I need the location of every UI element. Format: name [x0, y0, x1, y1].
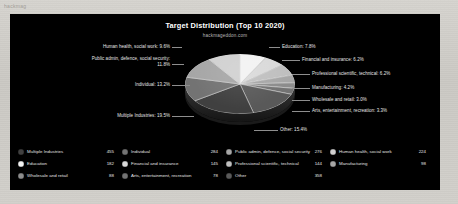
legend-item-value: 98: [404, 161, 426, 166]
legend-item[interactable]: Individual: [122, 146, 150, 157]
legend-item-value: 144: [300, 161, 322, 166]
legend-item-label: Multiple Industries: [27, 149, 63, 154]
legend-item-label: Human health, social work: [339, 149, 392, 154]
callout-education: Education: 7.8%: [282, 44, 316, 50]
leader-line-financial: [282, 60, 300, 61]
callout-public-admin: Public admin, defence, social security: …: [88, 56, 170, 67]
legend-item[interactable]: Financial and insurance: [122, 158, 179, 169]
callout-arts: Arts, entertainment, recreation: 3.3%: [312, 108, 387, 114]
chart-subtitle: hackmageddon.com: [10, 33, 440, 38]
legend-color-swatch-icon: [122, 173, 128, 179]
chart-panel: Target Distribution (Top 10 2020) hackma…: [10, 14, 440, 190]
chart-legend: Multiple Industries455Individual284Publi…: [10, 146, 440, 184]
leader-line-education: [269, 47, 280, 48]
legend-item-value: 182: [92, 161, 114, 166]
legend-item-label: Public admin, defence, social security: [235, 149, 310, 154]
chart-title: Target Distribution (Top 10 2020): [10, 21, 440, 30]
legend-item-value: 455: [92, 149, 114, 154]
leader-line-multiple-industries: [172, 116, 194, 117]
leader-line-wholesale: [292, 100, 310, 101]
legend-item[interactable]: Professional scientific, technical: [226, 158, 299, 169]
pie-chart-area: Human health, social work: 9.6% Public a…: [10, 40, 440, 146]
legend-item[interactable]: Manufacturing: [330, 158, 367, 169]
pie-slices: [185, 54, 295, 114]
corner-watermark: hackmag: [4, 3, 26, 9]
pie-chart: [185, 46, 295, 138]
legend-item[interactable]: Education: [18, 158, 47, 169]
legend-item[interactable]: Human health, social work: [330, 146, 392, 157]
legend-item-label: Other: [235, 173, 246, 178]
legend-color-swatch-icon: [122, 149, 128, 155]
legend-color-swatch-icon: [226, 161, 232, 167]
legend-item[interactable]: Wholesale and retail: [18, 170, 68, 181]
legend-color-swatch-icon: [330, 161, 336, 167]
leader-line-professional: [292, 74, 310, 75]
legend-color-swatch-icon: [330, 149, 336, 155]
legend-row: Education182Financial and insurance145Pr…: [18, 158, 432, 169]
legend-item-label: Individual: [131, 149, 150, 154]
leader-line-other: [254, 130, 278, 131]
callout-individual: Individual: 13.2%: [68, 82, 170, 88]
leader-line-manufacturing: [292, 88, 310, 89]
legend-color-swatch-icon: [226, 173, 232, 179]
leader-line-public-admin: [172, 64, 184, 65]
legend-item-label: Professional scientific, technical: [235, 161, 299, 166]
callout-professional: Professional scientific, technical: 6.2%: [312, 71, 390, 77]
legend-item-value: 276: [300, 149, 322, 154]
legend-item-label: Manufacturing: [339, 161, 367, 166]
callout-human-health: Human health, social work: 9.6%: [40, 44, 170, 50]
legend-item-value: 284: [196, 149, 218, 154]
callout-wholesale: Wholesale and retail: 3.0%: [312, 97, 367, 103]
legend-item[interactable]: Other: [226, 170, 246, 181]
legend-item-value: 358: [300, 173, 322, 178]
legend-item-label: Wholesale and retail: [27, 173, 68, 178]
legend-color-swatch-icon: [226, 149, 232, 155]
callout-financial: Financial and insurance: 6.2%: [302, 57, 364, 63]
callout-other: Other: 15.4%: [280, 127, 307, 133]
leader-line-individual: [172, 85, 190, 86]
legend-item[interactable]: Multiple Industries: [18, 146, 63, 157]
legend-item[interactable]: Public admin, defence, social security: [226, 146, 310, 157]
legend-color-swatch-icon: [18, 149, 24, 155]
legend-color-swatch-icon: [18, 173, 24, 179]
legend-item-value: 88: [92, 173, 114, 178]
legend-row: Multiple Industries455Individual284Publi…: [18, 146, 432, 157]
legend-row: Wholesale and retail88Arts, entertainmen…: [18, 170, 432, 181]
legend-item-value: 145: [196, 161, 218, 166]
pie-face: [185, 54, 295, 114]
page-background: hackmag Target Distribution (Top 10 2020…: [0, 0, 458, 204]
legend-item[interactable]: Arts, entertainment, recreation: [122, 170, 192, 181]
leader-line-human-health: [172, 47, 182, 48]
legend-item-value: 78: [196, 173, 218, 178]
legend-item-label: Arts, entertainment, recreation: [131, 173, 192, 178]
legend-item-value: 224: [404, 149, 426, 154]
legend-item-label: Financial and insurance: [131, 161, 179, 166]
leader-line-arts: [292, 111, 310, 112]
legend-color-swatch-icon: [18, 161, 24, 167]
callout-multiple-industries: Multiple Industries: 19.5%: [58, 113, 170, 119]
legend-color-swatch-icon: [122, 161, 128, 167]
legend-item-label: Education: [27, 161, 47, 166]
callout-manufacturing: Manufacturing: 4.2%: [312, 85, 354, 91]
